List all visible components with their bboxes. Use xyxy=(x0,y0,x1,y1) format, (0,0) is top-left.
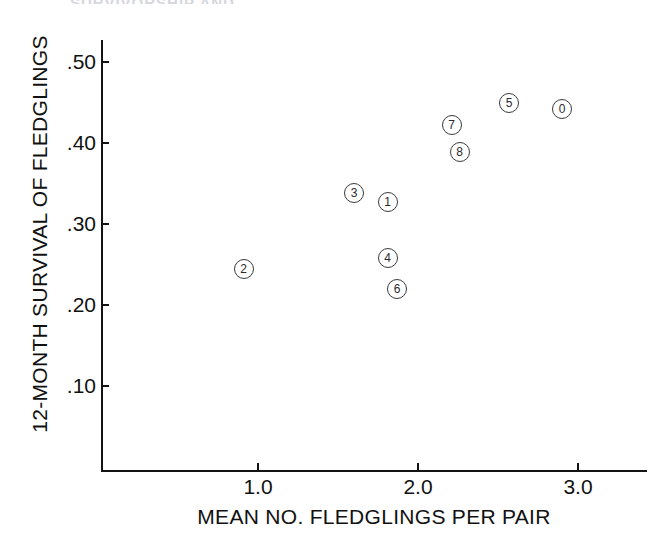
x-axis-line xyxy=(101,470,647,472)
data-point-marker: 4 xyxy=(378,248,398,268)
x-axis-title: MEAN NO. FLEDGLINGS PER PAIR xyxy=(101,505,647,529)
x-axis-tick-label: 2.0 xyxy=(388,476,448,497)
data-point-marker: 7 xyxy=(442,115,462,135)
y-axis-tick xyxy=(102,142,109,144)
y-axis-tick-label-text: .50 xyxy=(50,51,96,72)
x-axis-tick xyxy=(417,463,419,471)
y-axis-tick xyxy=(102,61,109,63)
y-axis-tick xyxy=(102,385,109,387)
y-axis-tick-label-text: .30 xyxy=(50,213,96,234)
data-point-marker: 6 xyxy=(387,279,407,299)
x-axis-tick-label: 3.0 xyxy=(548,476,608,497)
data-point-marker: 2 xyxy=(234,259,254,279)
data-point-marker: 3 xyxy=(344,183,364,203)
data-point-marker: 1 xyxy=(378,192,398,212)
data-point-marker: 0 xyxy=(552,99,572,119)
y-axis-tick-label-text: .10 xyxy=(50,375,96,396)
y-axis-tick xyxy=(102,223,109,225)
y-axis-line xyxy=(101,40,103,472)
y-axis-tick-label-text: .40 xyxy=(50,132,96,153)
data-point-marker: 8 xyxy=(450,142,470,162)
x-axis-tick-label: 1.0 xyxy=(228,476,288,497)
y-axis-tick xyxy=(102,304,109,306)
y-axis-tick-label-text: .20 xyxy=(50,294,96,315)
x-axis-tick xyxy=(257,463,259,471)
data-point-marker: 5 xyxy=(499,93,519,113)
x-axis-tick xyxy=(577,463,579,471)
scatter-plot-figure: SURVIVORSHIP AND .50.40.30.20.101.02.03.… xyxy=(0,0,656,552)
cropped-figure-title: SURVIVORSHIP AND xyxy=(70,0,330,4)
y-axis-title: 12-MONTH SURVIVAL OF FLEDGLINGS xyxy=(28,24,52,444)
